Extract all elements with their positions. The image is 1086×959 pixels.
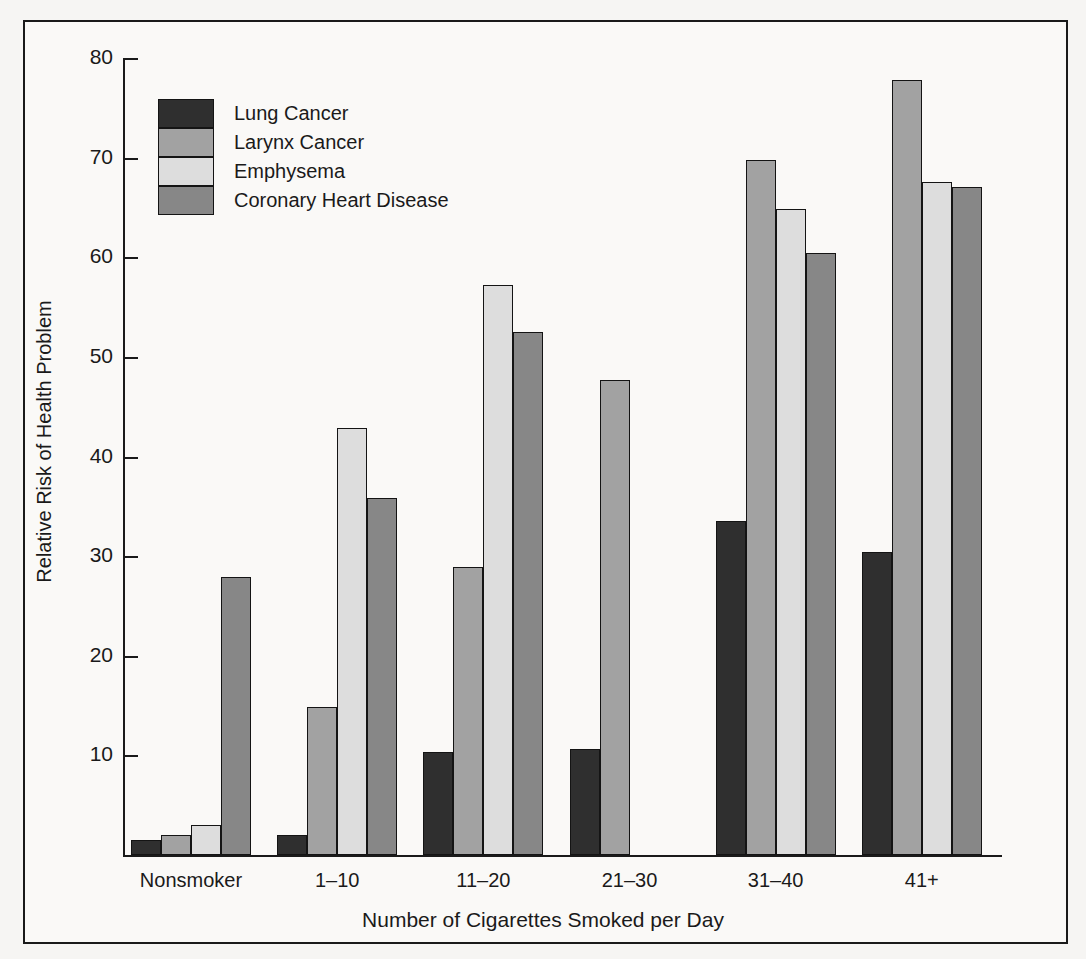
bar [337, 428, 367, 855]
y-axis-tick-label: 10 [90, 742, 113, 766]
chart-legend: Lung CancerLarynx CancerEmphysemaCoronar… [158, 99, 468, 215]
bar [892, 80, 922, 855]
legend-swatch [158, 157, 214, 186]
y-axis-tick-label: 20 [90, 643, 113, 667]
bar [161, 835, 191, 855]
bar [277, 835, 307, 855]
bar [191, 825, 221, 855]
bar [716, 521, 746, 855]
y-axis-tick-label: 40 [90, 444, 113, 468]
bar [862, 552, 892, 855]
bar [131, 840, 161, 855]
bar [806, 253, 836, 855]
bar [952, 187, 982, 855]
y-axis-tick-label: 70 [90, 145, 113, 169]
bar [513, 332, 543, 855]
legend-swatch [158, 99, 214, 128]
legend-item: Larynx Cancer [158, 128, 468, 157]
legend-label: Lung Cancer [234, 101, 349, 126]
legend-item: Emphysema [158, 157, 468, 186]
legend-label: Coronary Heart Disease [234, 188, 449, 213]
y-axis-tick-label: 60 [90, 244, 113, 268]
bar [746, 160, 776, 855]
bar [600, 380, 630, 855]
figure-canvas: 1020304050607080 Nonsmoker1–1011–2021–30… [0, 0, 1086, 959]
bar [776, 209, 806, 855]
y-axis-title: Relative Risk of Health Problem [33, 162, 56, 722]
legend-label: Larynx Cancer [234, 130, 364, 155]
bar [423, 752, 453, 855]
x-axis-line [123, 855, 1002, 857]
bar [453, 567, 483, 855]
y-axis-tick-label: 30 [90, 543, 113, 567]
y-axis-tick-label: 50 [90, 344, 113, 368]
legend-swatch [158, 128, 214, 157]
bar [221, 577, 251, 855]
legend-label: Emphysema [234, 159, 345, 184]
bar-group [862, 58, 982, 855]
bar-group [716, 58, 836, 855]
x-axis-tick-label: 41+ [832, 868, 1012, 892]
bar [483, 285, 513, 855]
bar [307, 707, 337, 855]
bar-group [570, 58, 690, 855]
bar [367, 498, 397, 855]
legend-item: Coronary Heart Disease [158, 186, 468, 215]
y-axis-tick-label: 80 [90, 45, 113, 69]
bar [570, 749, 600, 855]
legend-swatch [158, 186, 214, 215]
legend-item: Lung Cancer [158, 99, 468, 128]
bar [922, 182, 952, 855]
x-axis-title: Number of Cigarettes Smoked per Day [0, 908, 1086, 932]
